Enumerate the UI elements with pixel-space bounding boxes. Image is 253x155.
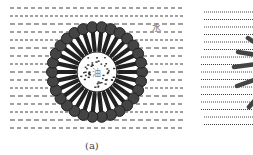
micelle-diagram: 水 油 (a) <box>0 0 253 155</box>
diagram-canvas <box>0 0 253 155</box>
panel-b-water-lines <box>201 12 253 125</box>
water-label: 水 <box>152 21 161 34</box>
panel-a-caption: (a) <box>85 140 99 151</box>
oil-core-label: 油 <box>92 66 101 79</box>
